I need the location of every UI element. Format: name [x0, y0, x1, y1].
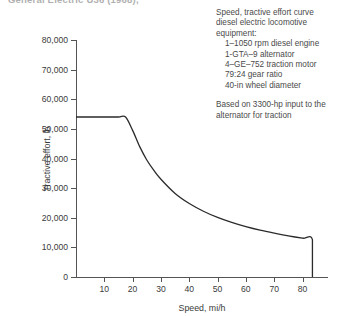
y-tick-label: 70,000: [42, 65, 68, 75]
y-tick-label: 0: [63, 272, 68, 282]
x-tick: [218, 277, 219, 282]
curve-path: [76, 116, 312, 277]
y-tick-label: 20,000: [42, 213, 68, 223]
x-tick: [104, 277, 105, 282]
plot-area: 010,00020,00030,00040,00050,00060,00070,…: [76, 40, 328, 277]
x-tick: [189, 277, 190, 282]
x-tick-label: 40: [184, 284, 194, 294]
annotation-header-line-1: diesel electric locomotive: [216, 18, 344, 28]
figure-container: General Electric U36 (1968), Speed, trac…: [0, 0, 344, 316]
top-caption: General Electric U36 (1968),: [8, 0, 139, 5]
x-tick: [274, 277, 275, 282]
x-tick-label: 80: [298, 284, 308, 294]
x-tick-label: 30: [156, 284, 166, 294]
y-tick-label: 80,000: [42, 35, 68, 45]
x-axis: [76, 277, 328, 278]
x-tick: [303, 277, 304, 282]
x-tick: [133, 277, 134, 282]
x-tick-label: 20: [128, 284, 138, 294]
x-tick-label: 70: [269, 284, 279, 294]
x-tick: [246, 277, 247, 282]
y-tick-label: 60,000: [42, 94, 68, 104]
y-tick: [71, 277, 76, 278]
y-axis-title: Tractive effort, lb: [42, 126, 52, 191]
annotation-header-line-0: Speed, tractive effort curve: [216, 8, 344, 18]
x-tick-label: 60: [241, 284, 251, 294]
x-tick-label: 10: [100, 284, 110, 294]
annotation-header-line-2: equipment:: [216, 29, 344, 39]
y-tick-label: 10,000: [42, 242, 68, 252]
tractive-effort-curve: [76, 40, 328, 277]
x-axis-title: Speed, mi/h: [179, 303, 226, 313]
x-tick-label: 50: [213, 284, 223, 294]
x-tick: [161, 277, 162, 282]
